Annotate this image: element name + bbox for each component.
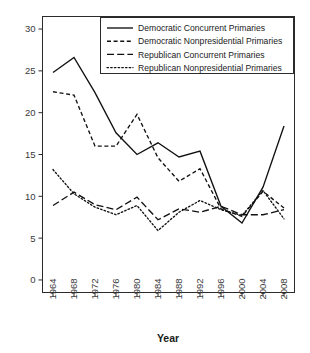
y-tick-label: 5 [30,233,35,244]
x-tick-label: 2000 [236,278,247,299]
chart-legend: Democratic Concurrent PrimariesDemocrati… [101,18,294,74]
y-tick-label: 15 [25,149,36,160]
x-tick-label: 2004 [257,278,268,299]
x-tick-label: 1976 [110,278,121,299]
legend-label-1: Democratic Nonpresidential Primaries [138,36,282,46]
x-axis-title: Year [157,332,179,344]
chart-figure: 051015202530 196419681972197619801984198… [0,0,310,353]
y-tick-label: 25 [25,65,36,76]
x-tick-label: 1996 [215,278,226,299]
y-tick-label: 30 [25,23,36,34]
legend-label-2: Republican Concurrent Primaries [138,50,265,60]
x-tick-label: 1980 [131,278,142,299]
x-tick-label: 1992 [194,278,205,299]
legend-label-0: Democratic Concurrent Primaries [138,23,265,33]
x-tick-label: 2008 [278,278,289,299]
x-tick-label: 1972 [89,278,100,299]
x-tick-label: 1984 [152,278,163,299]
legend-label-3: Republican Nonpresidential Primaries [138,63,282,73]
x-tick-label: 1968 [68,278,79,299]
y-tick-label: 0 [30,274,35,285]
line-chart: 051015202530 196419681972197619801984198… [0,0,310,353]
x-tick-label: 1988 [173,278,184,299]
y-tick-label: 10 [25,191,36,202]
y-tick-label: 20 [25,107,36,118]
x-tick-label: 1964 [47,278,58,299]
